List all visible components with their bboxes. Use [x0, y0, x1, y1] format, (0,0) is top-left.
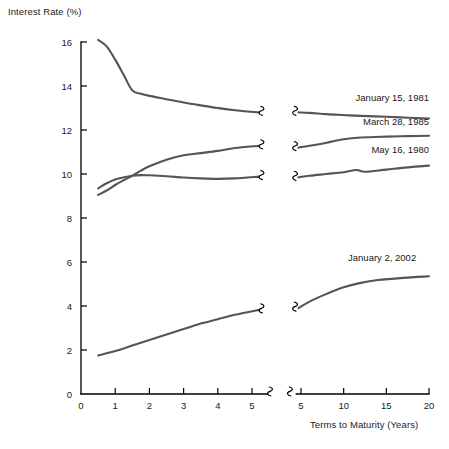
axis-break-icon [259, 140, 264, 149]
x-tick-label-right: 15 [381, 400, 392, 411]
x-tick-label-left: 4 [215, 400, 220, 411]
x-tick-label-left: 5 [249, 400, 254, 411]
y-tick-label: 2 [67, 345, 72, 356]
x-tick-label-right: 10 [338, 400, 349, 411]
y-tick-label: 4 [67, 301, 72, 312]
y-tick-label: 0 [67, 389, 72, 400]
series-label-2: May 16, 1980 [371, 144, 429, 155]
x-tick-label-right: 20 [424, 400, 435, 411]
y-axis: 0246810121416 [61, 37, 87, 400]
curve-right-3 [298, 276, 429, 308]
x-tick-label-left: 0 [78, 400, 83, 411]
data-curves [98, 40, 429, 356]
x-tick-label-left: 3 [181, 400, 186, 411]
axis-break-icon [293, 302, 298, 311]
y-tick-label: 10 [61, 169, 72, 180]
y-tick-label: 8 [67, 213, 72, 224]
x-tick-label-left: 1 [113, 400, 118, 411]
x-axis-left-panel: 012345 [78, 388, 267, 411]
series-label-0: January 15, 1981 [356, 92, 429, 103]
axis-break-icon [259, 106, 264, 115]
x-axis-right-panel: 5101520 [296, 388, 434, 411]
series-label-1: March 28, 1985 [363, 116, 429, 127]
axis-break-icon [293, 106, 298, 115]
y-tick-label: 6 [67, 257, 72, 268]
curve-left-1 [98, 146, 259, 195]
y-tick-label: 14 [61, 81, 72, 92]
series-label-3: January 2, 2002 [348, 252, 416, 263]
axis-break-icon [293, 142, 298, 151]
curve-right-2 [298, 166, 429, 178]
x-tick-label-left: 2 [147, 400, 152, 411]
curve-left-0 [98, 40, 259, 113]
axis-break-icon [288, 387, 293, 396]
curve-left-3 [98, 310, 259, 356]
series-labels: January 15, 1981March 28, 1985May 16, 19… [348, 92, 429, 263]
x-tick-label-right: 5 [298, 400, 303, 411]
axis-break-icon [259, 304, 264, 313]
axis-break-marks [259, 106, 297, 396]
chart-figure: Interest Rate (%) Terms to Maturity (Yea… [0, 0, 449, 449]
yield-curve-plot: 0246810121416 012345 5101520 January 15,… [0, 0, 449, 449]
y-tick-label: 12 [61, 125, 72, 136]
axis-break-icon [268, 387, 273, 396]
axis-break-icon [259, 171, 264, 180]
axis-break-icon [293, 171, 298, 180]
y-tick-label: 16 [61, 37, 72, 48]
